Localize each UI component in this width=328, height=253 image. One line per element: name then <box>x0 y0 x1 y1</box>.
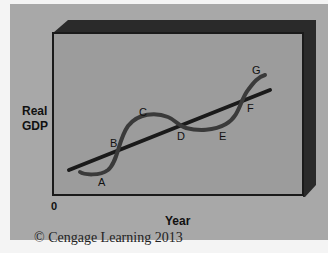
y-axis-label-line2: GDP <box>22 119 46 134</box>
business-cycle-diagram <box>0 0 328 253</box>
point-label-c: C <box>139 106 147 118</box>
point-label-b: B <box>110 137 117 149</box>
y-axis-label-line1: Real <box>22 104 46 119</box>
x-axis-label: Year <box>165 214 190 228</box>
y-axis-label: Real GDP <box>22 104 46 134</box>
point-label-a: A <box>98 176 105 188</box>
box-top-depth <box>53 20 316 33</box>
origin-label: 0 <box>51 200 57 212</box>
point-label-d: D <box>177 130 185 142</box>
box-right-depth <box>303 20 316 197</box>
point-label-e: E <box>219 130 226 142</box>
box-front-face <box>53 33 303 195</box>
point-label-f: F <box>247 102 254 114</box>
copyright-credit: © Cengage Learning 2013 <box>34 230 183 246</box>
point-label-g: G <box>252 64 261 76</box>
